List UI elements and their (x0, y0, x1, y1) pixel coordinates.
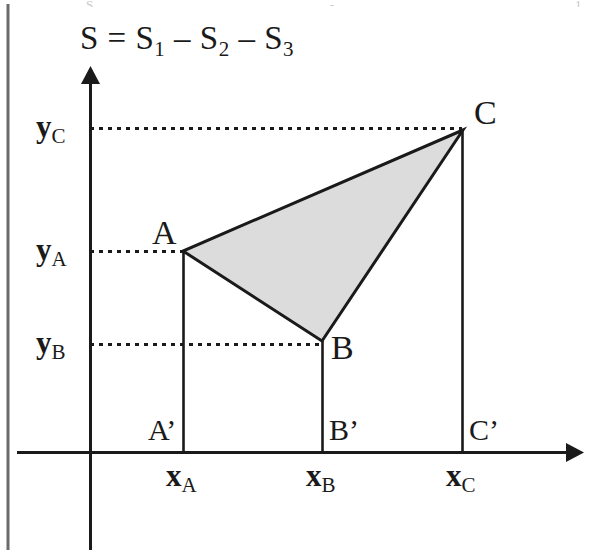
x-axis-label-xc-base: x (446, 458, 462, 493)
foot-label-a-prime: A’ (148, 415, 176, 445)
x-axis-label-xb-subscript: B (322, 473, 336, 497)
x-axis-label-xb: xB (306, 460, 336, 496)
y-axis-label-yc: yC (36, 111, 66, 147)
foot-label-b-prime: B’ (329, 415, 359, 445)
x-axis-label-xb-base: x (306, 458, 322, 493)
formula-s: S (80, 20, 99, 56)
y-axis-label-yb-base: y (36, 325, 52, 360)
x-axis-label-xa: xA (166, 460, 197, 496)
formula-expression: S = S1 – S2 – S3 (80, 22, 294, 60)
y-axis-label-yb: yB (36, 327, 66, 363)
formula-s2: S (200, 20, 219, 56)
y-axis-label-yc-base: y (36, 109, 52, 144)
formula-s2-subscript: 2 (219, 37, 230, 61)
formula-s3-subscript: 3 (283, 37, 294, 61)
x-axis-label-xc-subscript: C (462, 473, 476, 497)
triangle-abc-fill (183, 130, 463, 341)
y-axis-label-ya: yA (36, 234, 67, 270)
formula-s1: S (135, 20, 154, 56)
formula-minus-1: – (174, 20, 191, 56)
diagram-canvas (0, 0, 597, 550)
y-axis-label-ya-subscript: A (52, 247, 67, 271)
formula-equals: = (108, 20, 127, 56)
x-axis-label-xc: xC (446, 460, 476, 496)
y-axis-label-yc-subscript: C (52, 124, 66, 148)
x-axis-label-xa-base: x (166, 458, 182, 493)
x-axis-arrowhead (566, 443, 584, 462)
vertex-label-a: A (152, 216, 177, 250)
y-axis-label-ya-base: y (36, 232, 52, 267)
formula-s1-subscript: 1 (154, 37, 165, 61)
geometry-figure: S - 1 S = S1 – S2 – S3 yC (0, 0, 597, 550)
formula-minus-2: – (238, 20, 255, 56)
foot-label-c-prime: C’ (469, 415, 499, 445)
vertex-label-b: B (331, 331, 354, 365)
x-axis-label-xa-subscript: A (182, 473, 197, 497)
formula-s3: S (264, 20, 283, 56)
y-axis-label-yb-subscript: B (52, 340, 66, 364)
y-axis-arrowhead (81, 66, 100, 84)
vertex-label-c: C (474, 96, 497, 130)
